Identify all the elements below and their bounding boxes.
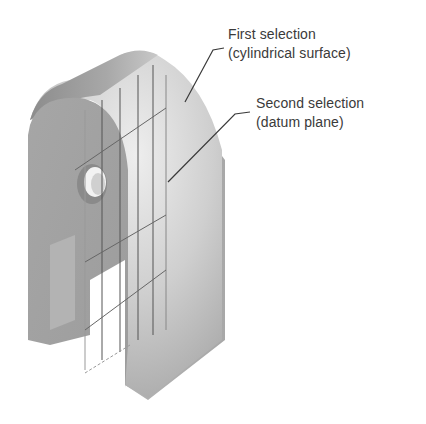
- annotation-first-subtitle: (cylindrical surface): [228, 45, 351, 62]
- cad-part-illustration: [0, 0, 426, 424]
- annotation-second-selection: Second selection (datum plane): [256, 95, 364, 131]
- annotation-first-title: First selection: [228, 26, 351, 43]
- part-front-face: [28, 98, 128, 400]
- annotation-first-selection: First selection (cylindrical surface): [228, 26, 351, 62]
- annotation-second-title: Second selection: [256, 95, 364, 112]
- annotation-second-subtitle: (datum plane): [256, 114, 364, 131]
